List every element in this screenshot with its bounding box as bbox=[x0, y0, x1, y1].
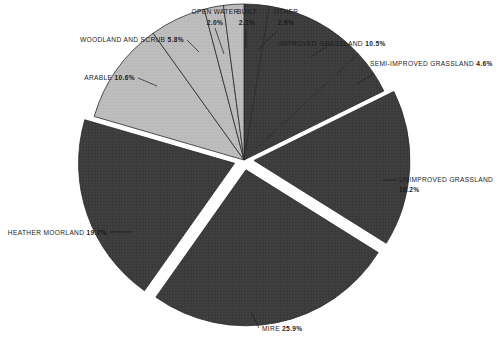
label-open-water-pct: 2.0% bbox=[207, 19, 223, 26]
label-heather-moorland: HEATHER MOORLAND 19.7% bbox=[8, 229, 107, 236]
label-arable: ARABLE 10.6% bbox=[84, 74, 135, 81]
label-semi-improved-grassland: SEMI-IMPROVED GRASSLAND 4.6% bbox=[370, 60, 493, 67]
label-improved-grassland: IMPROVED GRASSLAND 10.5% bbox=[279, 40, 386, 47]
label-woodland-and-scrub: WOODLAND AND SCRUB 5.8% bbox=[80, 36, 184, 43]
label-open-water: OPEN WATER bbox=[191, 8, 238, 15]
pie-chart-figure: IMPROVED GRASSLAND 10.5% SEMI-IMPROVED G… bbox=[0, 0, 496, 341]
label-mire: MIRE 25.9% bbox=[262, 325, 303, 332]
label-built-pct: 2.1% bbox=[239, 19, 255, 26]
pie-chart-svg: IMPROVED GRASSLAND 10.5% SEMI-IMPROVED G… bbox=[0, 0, 496, 341]
label-other-pct: 2.6% bbox=[278, 19, 294, 26]
label-unimproved-grassland-pct: 16.2% bbox=[399, 186, 419, 193]
label-unimproved-grassland: UNIMPROVED GRASSLAND bbox=[399, 176, 493, 183]
label-other: OTHER bbox=[274, 8, 299, 15]
label-built: BUILT bbox=[237, 8, 257, 15]
